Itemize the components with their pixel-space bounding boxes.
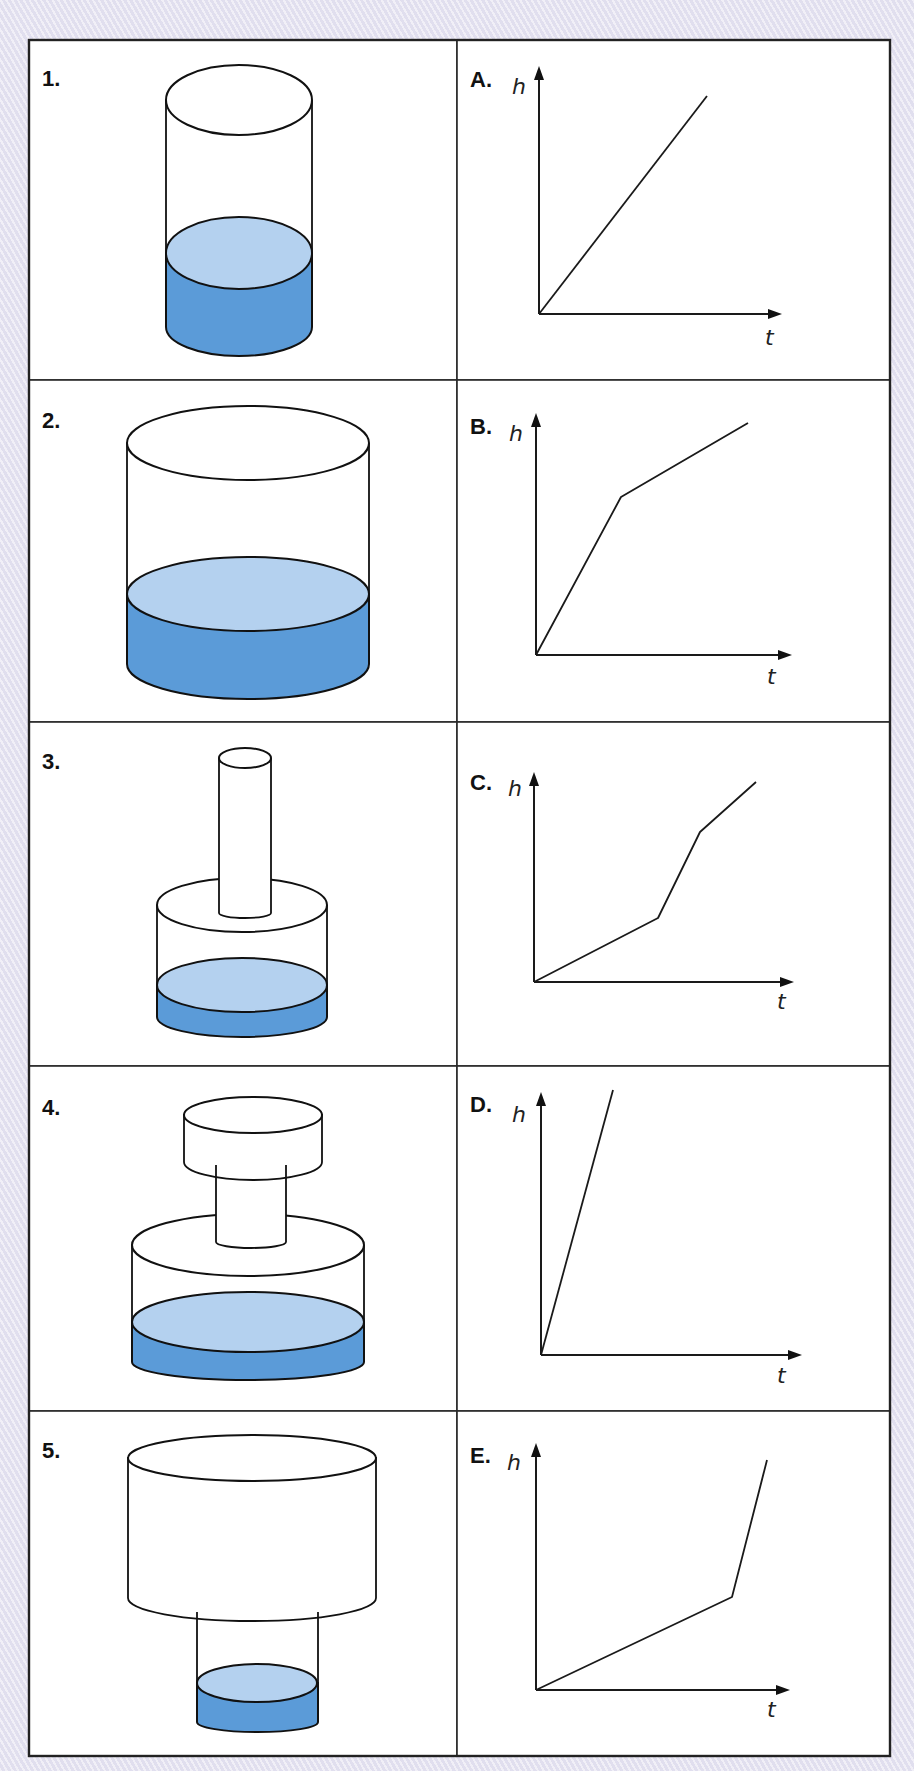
container-label-2: 2. [42, 408, 60, 433]
graph-label-c: C. [470, 770, 492, 795]
graph-a-xlabel: t [765, 325, 775, 350]
container-label-5: 5. [42, 1438, 60, 1463]
graph-a-ylabel: h [512, 74, 526, 99]
container-label-3: 3. [42, 749, 60, 774]
matching-table: 1. A. h t 2. B. h t [0, 0, 914, 1771]
graph-label-a: A. [470, 67, 492, 92]
graph-b-ylabel: h [509, 421, 523, 446]
graph-b-xlabel: t [767, 664, 777, 689]
graph-cell-e [457, 1411, 890, 1756]
graph-cell-c [457, 722, 890, 1066]
graph-label-b: B. [470, 414, 492, 439]
container-label-4: 4. [42, 1095, 60, 1120]
graph-e-xlabel: t [767, 1697, 777, 1722]
graph-c-ylabel: h [508, 776, 522, 801]
graph-label-d: D. [470, 1092, 492, 1117]
graph-label-e: E. [470, 1443, 491, 1468]
graph-d-ylabel: h [512, 1102, 526, 1127]
graph-e-ylabel: h [507, 1450, 521, 1475]
container-label-1: 1. [42, 66, 60, 91]
graph-d-xlabel: t [777, 1363, 787, 1388]
graph-c-xlabel: t [777, 989, 787, 1014]
